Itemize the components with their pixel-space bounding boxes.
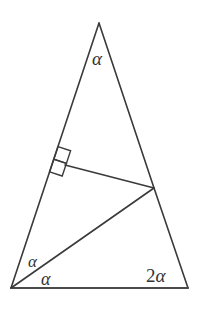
cevian-segment xyxy=(11,188,154,288)
geometry-figure: α α α 2α xyxy=(0,0,200,313)
altitude-segment xyxy=(65,165,154,188)
bottom-left-upper-angle-label: α xyxy=(28,253,37,270)
bottom-right-angle-label: 2α xyxy=(146,266,165,285)
apex-angle-label: α xyxy=(92,49,102,68)
bottom-left-lower-angle-label: α xyxy=(41,270,50,288)
bottom-right-angle-symbol: α xyxy=(156,265,166,286)
bottom-right-angle-coefficient: 2 xyxy=(146,265,156,286)
triangle-right-edge xyxy=(99,23,188,288)
